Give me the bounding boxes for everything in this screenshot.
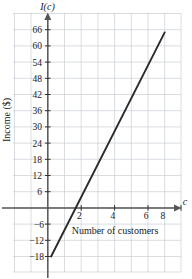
y-tick-label-18: 18 — [33, 155, 43, 165]
y-tick-label-neg12: −12 — [29, 236, 44, 246]
y-tick-label-12: 12 — [33, 171, 43, 181]
x-axis-name-label: c — [183, 196, 188, 207]
y-tick-label-6: 6 — [37, 187, 42, 197]
chart-figure: 66 60 54 48 42 36 30 24 18 12 6 −6 −12 −… — [0, 0, 192, 279]
y-tick-label-neg6: −6 — [34, 220, 44, 230]
y-tick-label-36: 36 — [33, 106, 43, 116]
y-tick-label-42: 42 — [33, 90, 43, 100]
y-tick-label-66: 66 — [33, 25, 43, 35]
y-axis-title: Income ($) — [1, 98, 13, 142]
y-tick-label-30: 30 — [33, 122, 43, 132]
y-axis-name-label: I(c) — [39, 1, 55, 13]
x-tick-label-4: 4 — [110, 211, 115, 221]
y-tick-label-48: 48 — [33, 74, 43, 84]
y-tick-label-neg18: −18 — [29, 252, 44, 262]
x-tick-label-6: 6 — [144, 211, 149, 221]
y-tick-label-24: 24 — [33, 139, 43, 149]
x-axis-title: Number of customers — [72, 225, 159, 236]
y-tick-label-54: 54 — [33, 58, 43, 68]
x-tick-label-2: 2 — [77, 211, 82, 221]
y-tick-label-60: 60 — [33, 41, 43, 51]
x-tick-label-8: 8 — [161, 211, 166, 221]
